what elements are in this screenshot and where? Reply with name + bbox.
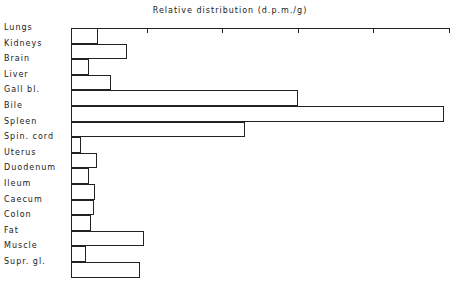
bar-row	[71, 246, 449, 262]
bar-row	[71, 122, 449, 138]
category-label: Fat	[4, 223, 19, 239]
chart-plot-area	[71, 28, 449, 278]
bar-row	[71, 28, 449, 44]
bar-row	[71, 215, 449, 231]
bar	[71, 106, 444, 122]
category-label: Spin. cord	[4, 129, 54, 145]
category-label: Lungs	[4, 20, 33, 36]
category-label: Duodenum	[4, 160, 56, 176]
bar	[71, 184, 95, 200]
category-label: Colon	[4, 207, 32, 223]
bar	[71, 75, 111, 91]
bar	[71, 231, 144, 247]
x-axis-tick	[449, 28, 450, 33]
bar-row	[71, 90, 449, 106]
category-label: Ileum	[4, 176, 31, 192]
bar-row	[71, 231, 449, 247]
category-label: Supr. gl.	[4, 254, 46, 270]
bar	[71, 59, 89, 75]
bar-row	[71, 262, 449, 278]
bar-row	[71, 153, 449, 169]
bar	[71, 90, 298, 106]
bar-row	[71, 168, 449, 184]
category-label: Muscle	[4, 238, 38, 254]
bar	[71, 168, 89, 184]
bar	[71, 28, 98, 44]
category-label: Gall bl.	[4, 82, 40, 98]
bar-row	[71, 200, 449, 216]
category-label: Bile	[4, 98, 23, 114]
bar	[71, 137, 81, 153]
bar	[71, 153, 97, 169]
bar	[71, 246, 86, 262]
bar	[71, 44, 127, 60]
bar-row	[71, 137, 449, 153]
bar-row	[71, 106, 449, 122]
bar-row	[71, 75, 449, 91]
category-label: Caecum	[4, 192, 43, 208]
category-label: Kidneys	[4, 36, 42, 52]
category-label: Brain	[4, 51, 30, 67]
bar	[71, 200, 94, 216]
bar	[71, 122, 245, 138]
category-label: Liver	[4, 67, 29, 83]
bar-row	[71, 44, 449, 60]
bar	[71, 215, 91, 231]
category-label: Uterus	[4, 145, 36, 161]
bar-row	[71, 184, 449, 200]
bar	[71, 262, 140, 278]
bar-row	[71, 59, 449, 75]
chart-title: Relative distribution (d.p.m./g)	[0, 6, 460, 15]
category-label: Spleen	[4, 114, 37, 130]
